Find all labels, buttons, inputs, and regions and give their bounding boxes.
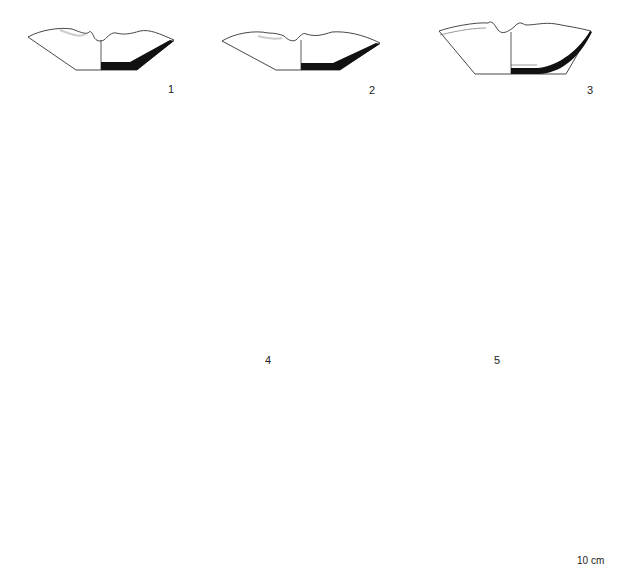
profile-3 (439, 22, 592, 74)
object-number-4: 4 (265, 354, 271, 366)
object-number-3: 3 (587, 84, 593, 96)
object-number-2: 2 (369, 84, 375, 96)
pottery-plate (0, 0, 620, 586)
scale-bar-label: 10 cm (577, 555, 604, 566)
object-number-1: 1 (168, 83, 174, 95)
profile-1 (28, 28, 174, 70)
profile-2 (222, 32, 380, 70)
object-number-5: 5 (494, 354, 500, 366)
